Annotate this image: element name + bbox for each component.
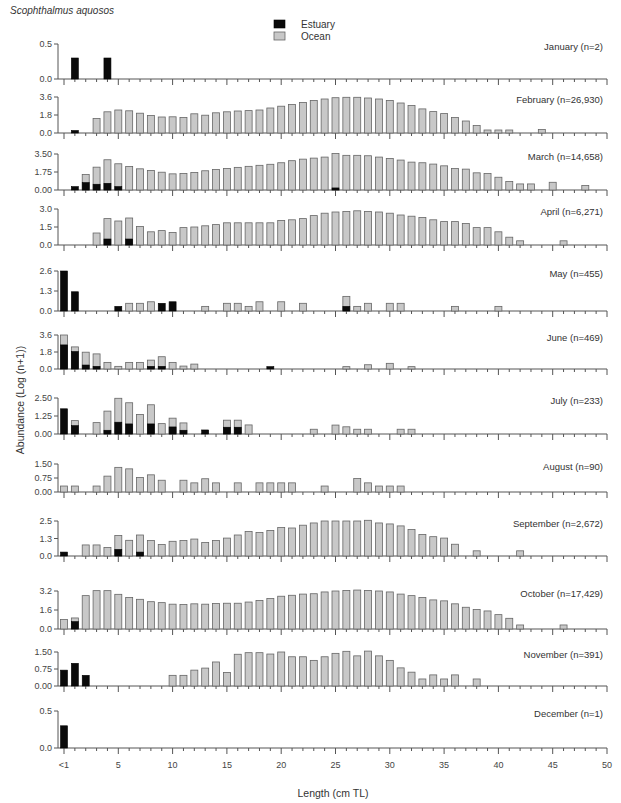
bar-ocean	[375, 486, 382, 492]
bar-ocean	[158, 231, 165, 245]
panels: 0.00.5January (n=2)0.01.83.6February (n=…	[34, 39, 607, 754]
bar-ocean	[158, 117, 165, 133]
bar-ocean	[506, 618, 513, 629]
bar-ocean	[408, 216, 415, 245]
panel-april: 0.01.53.0April (n=6,271)	[39, 204, 607, 251]
bar-ocean	[375, 656, 382, 686]
species-title: Scophthalmus aquosos	[10, 5, 114, 16]
bar-ocean	[202, 115, 209, 133]
bar-ocean	[397, 526, 404, 556]
panel-february: 0.01.83.6February (n=26,930)	[39, 92, 607, 139]
bar-estuary	[158, 303, 165, 311]
bar-ocean	[256, 483, 263, 492]
bar-ocean	[278, 483, 285, 492]
bar-ocean	[310, 594, 317, 629]
bar-ocean	[169, 541, 176, 556]
panel-august: 0.000.751.50August (n=90)	[34, 459, 607, 498]
y-tick-label: 3.2	[39, 586, 52, 596]
bar-ocean	[93, 486, 100, 492]
bar-ocean	[115, 110, 122, 133]
bar-ocean	[137, 477, 144, 492]
bar-ocean	[223, 303, 230, 311]
bar-ocean	[332, 521, 339, 556]
bar-estuary	[71, 352, 78, 369]
bar-ocean	[267, 164, 274, 190]
bar-estuary	[61, 271, 68, 311]
bar-ocean	[343, 367, 350, 369]
bar-estuary	[147, 424, 154, 434]
bar-ocean	[234, 303, 241, 311]
bar-ocean	[82, 545, 89, 556]
legend-swatch-estuary	[274, 20, 285, 28]
y-tick-label: 1.5	[39, 222, 52, 232]
bar-ocean	[354, 155, 361, 190]
bar-ocean	[213, 169, 220, 190]
bar-ocean	[332, 153, 339, 190]
bar-estuary	[71, 292, 78, 311]
month-label: December (n=1)	[534, 708, 603, 719]
bar-ocean	[473, 551, 480, 556]
bar-ocean	[234, 535, 241, 556]
bar-ocean	[61, 620, 68, 630]
bar-estuary	[82, 675, 89, 686]
bar-ocean	[419, 597, 426, 629]
bar-ocean	[234, 223, 241, 245]
y-tick-label: 1.75	[34, 167, 52, 177]
bar-ocean	[245, 111, 252, 133]
bar-ocean	[441, 679, 448, 686]
bar-ocean	[310, 158, 317, 190]
bar-estuary	[82, 365, 89, 369]
panel-december: 0.00.5December (n=1)	[39, 706, 607, 754]
bar-ocean	[126, 303, 133, 311]
bar-ocean	[582, 186, 589, 190]
bar-ocean	[223, 168, 230, 190]
bar-ocean	[137, 414, 144, 434]
bar-ocean	[332, 591, 339, 629]
y-tick-label: 3.0	[39, 204, 52, 214]
bar-ocean	[375, 523, 382, 556]
y-tick-label: 1.6	[39, 605, 52, 615]
bar-estuary	[93, 366, 100, 369]
legend: Estuary Ocean	[274, 19, 335, 42]
bar-ocean	[332, 212, 339, 245]
bar-ocean	[430, 112, 437, 133]
bar-estuary	[115, 306, 122, 311]
bar-ocean	[169, 604, 176, 629]
bar-estuary	[115, 549, 122, 556]
bar-ocean	[202, 543, 209, 556]
bar-ocean	[451, 222, 458, 245]
bar-ocean	[202, 668, 209, 686]
bar-ocean	[147, 602, 154, 629]
y-tick-label: 0.5	[39, 706, 52, 716]
bar-ocean	[234, 603, 241, 629]
bar-ocean	[223, 538, 230, 556]
bar-ocean	[256, 165, 263, 190]
bar-ocean	[462, 121, 469, 133]
bar-ocean	[115, 366, 122, 369]
y-tick-label: 2.50	[34, 393, 52, 403]
bar-ocean	[451, 604, 458, 629]
bar-estuary	[267, 367, 274, 369]
bar-ocean	[93, 119, 100, 134]
bar-ocean	[473, 173, 480, 190]
legend-label-estuary: Estuary	[301, 19, 335, 30]
bar-ocean	[430, 675, 437, 686]
y-tick-label: 0.0	[39, 128, 52, 138]
bar-ocean	[93, 545, 100, 556]
month-label: July (n=233)	[550, 395, 603, 406]
bar-ocean	[267, 108, 274, 133]
panel-november: 0.000.751.50November (n=391)	[34, 647, 607, 692]
legend-label-ocean: Ocean	[301, 31, 330, 42]
bar-ocean	[202, 226, 209, 245]
bar-estuary	[71, 131, 78, 134]
bar-ocean	[299, 102, 306, 133]
bar-ocean	[267, 483, 274, 492]
bar-ocean	[495, 130, 502, 133]
bar-ocean	[234, 167, 241, 190]
bar-ocean	[245, 223, 252, 245]
length-frequency-chart: Scophthalmus aquosos Estuary Ocean Abund…	[0, 0, 621, 803]
bar-ocean	[397, 486, 404, 492]
bar-ocean	[506, 182, 513, 190]
bar-ocean	[223, 112, 230, 133]
bar-ocean	[408, 672, 415, 686]
